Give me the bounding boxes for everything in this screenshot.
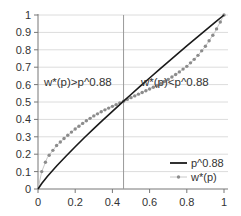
w-star-marker — [55, 144, 58, 147]
y-tick-label: 1 — [25, 9, 31, 21]
x-tick-label: 0 — [35, 196, 41, 208]
w-star-marker — [44, 161, 47, 164]
x-tick-label: 0.6 — [142, 196, 157, 208]
y-tick-label: 0.1 — [16, 166, 31, 178]
y-tick-label: 0.8 — [16, 44, 31, 56]
w-star-marker — [204, 45, 207, 48]
y-tick-label: 0.5 — [16, 96, 31, 108]
w-star-marker — [66, 134, 69, 137]
w-star-marker — [196, 54, 199, 57]
w-star-marker — [47, 154, 50, 157]
annotations: w*(p)>p^0.88w*(p)<p^0.88 — [43, 76, 209, 88]
legend-label: w*(p) — [190, 171, 217, 183]
w-star-marker — [85, 119, 88, 122]
x-axis-ticks: 00.20.40.60.81 — [35, 189, 227, 208]
w-star-marker — [103, 108, 106, 111]
w-star-marker — [88, 117, 91, 120]
annotation-label: w*(p)>p^0.88 — [43, 76, 112, 88]
w-star-marker — [111, 105, 114, 108]
legend: p^0.88w*(p) — [170, 157, 224, 183]
w-star-marker — [137, 92, 140, 95]
w-star-marker — [100, 110, 103, 113]
probability-weighting-chart: 00.10.20.30.40.50.60.70.80.91 00.20.40.6… — [0, 0, 241, 216]
w-star-marker — [193, 58, 196, 61]
w-star-marker — [70, 130, 73, 133]
y-tick-label: 0.6 — [16, 79, 31, 91]
w-star-marker — [74, 127, 77, 130]
w-star-marker — [62, 137, 65, 140]
w-star-marker — [77, 124, 80, 127]
w-star-marker — [51, 149, 54, 152]
w-star-marker — [211, 33, 214, 36]
y-tick-label: 0.4 — [16, 113, 31, 125]
x-tick-label: 1 — [221, 196, 227, 208]
y-axis-ticks: 00.10.20.30.40.50.60.70.80.91 — [16, 9, 38, 195]
x-tick-label: 0.8 — [179, 196, 194, 208]
w-star-marker — [107, 106, 110, 109]
w-star-marker — [92, 114, 95, 117]
w-star-marker — [140, 91, 143, 94]
x-tick-label: 0.4 — [105, 196, 120, 208]
w-star-marker — [207, 39, 210, 42]
w-star-marker — [178, 70, 181, 73]
w-star-marker — [189, 61, 192, 64]
w-star-marker — [133, 94, 136, 97]
w-star-marker — [181, 67, 184, 70]
w-star-marker — [81, 122, 84, 125]
y-tick-label: 0.2 — [16, 148, 31, 160]
w-star-marker — [215, 27, 218, 30]
w-star-marker — [96, 112, 99, 115]
x-tick-label: 0.2 — [68, 196, 83, 208]
w-star-marker — [59, 140, 62, 143]
w-star-marker — [40, 170, 43, 173]
y-tick-label: 0.3 — [16, 131, 31, 143]
w-star-marker — [200, 49, 203, 52]
legend-label: p^0.88 — [191, 157, 224, 169]
w-star-marker — [219, 20, 222, 23]
y-tick-label: 0.7 — [16, 61, 31, 73]
annotation-label: w*(p)<p^0.88 — [140, 76, 209, 88]
legend-marker-w-star — [177, 175, 180, 178]
y-tick-label: 0.9 — [16, 26, 31, 38]
w-star-marker — [144, 89, 147, 92]
w-star-marker — [185, 65, 188, 68]
y-tick-label: 0 — [25, 183, 31, 195]
